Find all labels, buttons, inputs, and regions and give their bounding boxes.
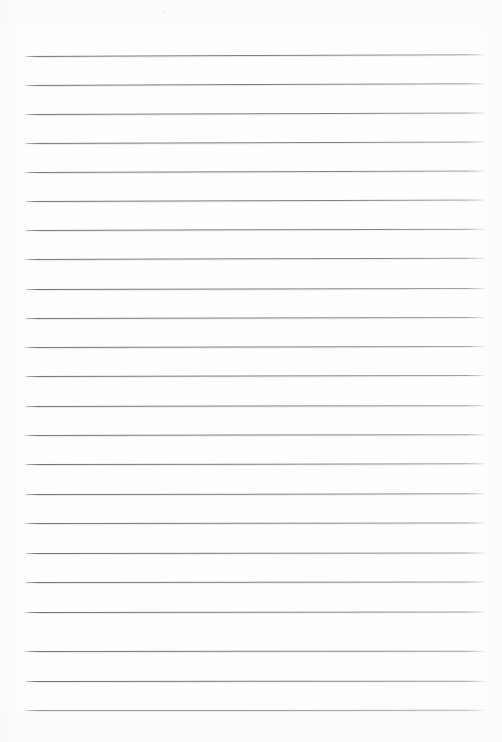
writing-area[interactable] [24, 40, 484, 730]
lined-paper-page [0, 0, 502, 742]
scan-speck-artifact [163, 11, 166, 14]
